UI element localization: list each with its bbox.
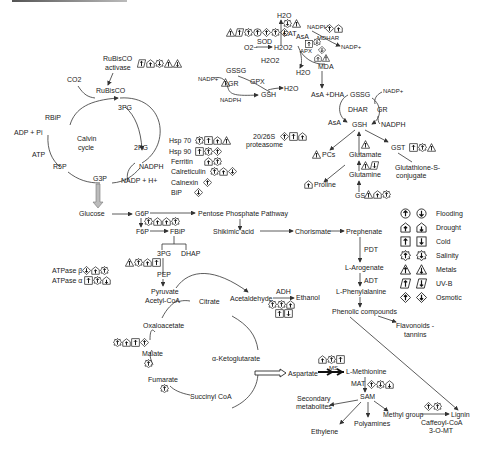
rubisco-activase-label-1: RuBisCO bbox=[103, 55, 133, 62]
legend-drought-label: Drought bbox=[436, 224, 461, 232]
salinity-down-icon bbox=[155, 59, 163, 67]
o2-label: O2− bbox=[244, 44, 257, 51]
osmotic-up-icon bbox=[203, 178, 211, 186]
legend: Flooding Drought Cold Salinity Metals UV… bbox=[400, 209, 463, 303]
oxaloacetate-label: Oxaloacetate bbox=[143, 322, 184, 329]
metals-up-icon bbox=[427, 144, 435, 152]
osmotic-up-icon bbox=[367, 380, 375, 388]
metals-up-icon bbox=[292, 20, 300, 28]
legend-salinity-label: Salinity bbox=[436, 252, 459, 260]
gr-label: GR bbox=[377, 106, 388, 113]
uvb-up-icon bbox=[137, 60, 145, 68]
glycolysis: Glucose G6P Pentose Phosphate Pathway F6… bbox=[52, 210, 382, 317]
drought-up-icon bbox=[92, 267, 100, 275]
gst-to-conjugate-line bbox=[398, 153, 412, 162]
legend-flooding-label: Flooding bbox=[436, 210, 463, 218]
pyruvate-label: Pyruvate bbox=[151, 288, 179, 296]
drought-up-icon bbox=[299, 133, 307, 141]
legend-uvb-label: UV-B bbox=[436, 280, 453, 287]
methionine-pathway: Aspartate MS L-Methionine MAT SAM Second… bbox=[255, 355, 470, 436]
salinity-up-icon bbox=[268, 300, 276, 308]
nadp-left-label: NADP+ bbox=[198, 76, 219, 82]
drought-up-icon bbox=[144, 259, 152, 267]
legend-cold-up-icon bbox=[401, 237, 410, 246]
drought-up-icon bbox=[123, 339, 131, 347]
bip-label: BiP bbox=[171, 189, 182, 196]
salinity-up-icon bbox=[213, 157, 221, 165]
salinity-up-icon bbox=[100, 266, 108, 274]
uvb-down-icon bbox=[370, 162, 378, 170]
osmotic-up-icon bbox=[424, 402, 432, 410]
calvin-cycle-label-1: Calvin bbox=[77, 135, 97, 142]
salinity-up-icon bbox=[204, 147, 212, 155]
metals-up-icon bbox=[312, 151, 320, 159]
g3p-to-glucose-arrow bbox=[93, 184, 103, 208]
legend-drought-up-icon bbox=[401, 223, 410, 232]
drought-up-icon bbox=[147, 60, 155, 68]
calvin-cycle: RuBisCO activase CO2 RuBisCO 3PG RBiP AD… bbox=[14, 55, 182, 208]
osmotic-down-icon bbox=[228, 167, 236, 175]
metals-up-icon bbox=[364, 191, 372, 199]
akg-to-aspartate-double-arrow bbox=[255, 369, 286, 377]
rubisco-activase-label-2: activase bbox=[105, 64, 131, 71]
pdt-label: PDT bbox=[364, 246, 379, 253]
salinity-up-icon bbox=[113, 338, 121, 346]
prephenate-label: Prephenate bbox=[346, 228, 382, 236]
metals-up-icon bbox=[361, 141, 369, 149]
proteasome-label-1: 20/26S bbox=[253, 133, 276, 140]
g3p-label: G3P bbox=[93, 175, 107, 182]
malate-label: Malate bbox=[142, 350, 163, 357]
pcs-label: PCs bbox=[322, 151, 336, 158]
metals-down-icon bbox=[173, 60, 181, 68]
gs-label: GS bbox=[355, 192, 365, 199]
tca-arc-akg-succ bbox=[232, 372, 258, 408]
salinity-up-icon bbox=[418, 143, 426, 151]
legend-osmotic-up-icon bbox=[400, 292, 410, 302]
legend-cold-label: Cold bbox=[436, 238, 451, 245]
asa-label: AsA bbox=[328, 119, 341, 126]
nadp-gr-label: NADP+ bbox=[383, 88, 404, 94]
f6p-label: F6P bbox=[136, 228, 149, 235]
h2o-apx-label: H2O bbox=[296, 69, 311, 76]
conjugate-label-2: conjugate bbox=[396, 172, 426, 180]
nadph-gr-curve bbox=[378, 116, 380, 124]
drought-up-icon bbox=[305, 181, 313, 189]
tca-arc-mal-oaa bbox=[150, 330, 155, 340]
tca-arc-succ-fum bbox=[170, 386, 190, 395]
methionine-label: L-Methionine bbox=[346, 368, 387, 375]
salinity-up-icon bbox=[244, 28, 252, 36]
akg-label: α-Ketoglutarate bbox=[212, 355, 260, 363]
osmotic-up-icon bbox=[280, 132, 288, 140]
atp-label: ATP bbox=[32, 151, 45, 158]
osmotic-down-icon bbox=[194, 188, 202, 196]
fbip-branch bbox=[162, 236, 186, 250]
proteasome: 20/26S proteasome bbox=[246, 132, 306, 149]
phenolic-to-flavonoids-arrow bbox=[378, 316, 396, 322]
salinity-up-icon bbox=[327, 355, 335, 363]
drought-up-icon bbox=[315, 55, 322, 62]
legend-uvb-down-icon bbox=[416, 279, 426, 288]
drought-up-icon bbox=[214, 137, 222, 145]
salinity-down-icon bbox=[283, 19, 291, 27]
g6p-label: G6P bbox=[135, 210, 149, 217]
adp-label: ADP + Pi bbox=[14, 129, 43, 136]
osmotic-up-icon bbox=[262, 28, 270, 36]
salinity-up-icon bbox=[210, 167, 218, 175]
drought-up-icon bbox=[374, 191, 382, 199]
secondary-label-1: Secondary bbox=[297, 395, 331, 403]
shikimic-label: Shikimic acid bbox=[213, 228, 254, 235]
glutathione-cycle: AsA +DHA GSSG NADP+ DHAR GR AsA GSH NADP… bbox=[305, 88, 441, 199]
metals-up-icon bbox=[226, 29, 234, 37]
gsh-to-pcs-arrow bbox=[330, 130, 355, 150]
acetaldehyde-label: Acetaldehyde bbox=[230, 295, 273, 303]
legend-metals-label: Metals bbox=[436, 266, 457, 273]
osmotic-up-icon bbox=[140, 338, 148, 346]
flavonoids-label-1: Flavonoids - bbox=[396, 322, 435, 329]
osmotic-up-icon bbox=[213, 147, 221, 155]
legend-drought-down-icon bbox=[417, 223, 426, 232]
legend-uvb-up-icon bbox=[400, 279, 410, 288]
hsp70-label-text: Hsp 70 bbox=[169, 137, 191, 145]
legend-cold-down-icon bbox=[417, 237, 426, 246]
ppp-label: Pentose Phosphate Pathway bbox=[198, 210, 288, 218]
nadp-h-label: NADP + H+ bbox=[121, 177, 157, 184]
